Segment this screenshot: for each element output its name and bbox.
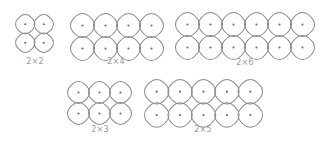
label-2x5: 2×5 [194, 125, 211, 134]
lattice-2x5 [140, 75, 266, 131]
cell-dot [202, 114, 204, 116]
cell-dot [232, 23, 234, 25]
cell-dot [278, 46, 280, 48]
cell-dot [249, 114, 251, 116]
label-2x2: 2×2 [26, 57, 43, 66]
label-2x3: 2×3 [91, 125, 108, 134]
cell-dot [186, 46, 188, 48]
cell-dot [301, 23, 303, 25]
cell-dot [249, 91, 251, 93]
cell-dot [255, 46, 257, 48]
cell-dot [156, 91, 158, 93]
cell-dot [255, 23, 257, 25]
cell-dot [150, 24, 152, 26]
cell-dot [179, 114, 181, 116]
cell-dot [186, 23, 188, 25]
cell-dot [226, 114, 228, 116]
lattice-2x3 [64, 78, 135, 128]
cell-dot [127, 47, 129, 49]
cell-dot [202, 91, 204, 93]
cell-dot [209, 46, 211, 48]
cell-dot [104, 47, 106, 49]
lattice-diagram [0, 0, 330, 142]
cell-dot [301, 46, 303, 48]
cell-dot [24, 42, 26, 44]
cell-dot [226, 91, 228, 93]
cell-dot [209, 23, 211, 25]
cell-dot [278, 23, 280, 25]
cell-dot [98, 112, 100, 114]
label-2x6: 2×6 [236, 58, 253, 67]
cell-dot [119, 112, 121, 114]
cell-dot [24, 23, 26, 25]
cell-dot [43, 23, 45, 25]
cell-dot [104, 24, 106, 26]
cell-dot [81, 24, 83, 26]
cell-dot [98, 91, 100, 93]
cell-dot [127, 24, 129, 26]
cell-dot [119, 91, 121, 93]
cell-dot [81, 47, 83, 49]
cell-dot [232, 46, 234, 48]
cell-dot [179, 91, 181, 93]
cell-dot [150, 47, 152, 49]
cell-dot [156, 114, 158, 116]
cell-dot [43, 42, 45, 44]
lattice-2x6 [172, 9, 319, 64]
cell-dot [77, 112, 79, 114]
lattice-2x2 [12, 11, 56, 55]
label-2x4: 2×4 [107, 57, 124, 66]
cell-dot [77, 91, 79, 93]
